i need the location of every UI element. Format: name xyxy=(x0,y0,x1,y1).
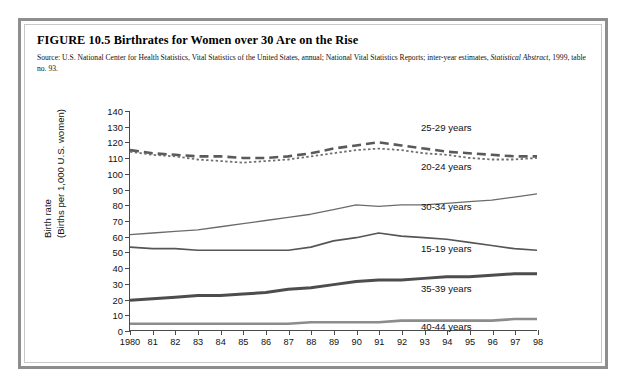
x-tick-label: 88 xyxy=(306,337,316,347)
x-tick-label: 91 xyxy=(374,337,384,347)
y-tick-label: 10 xyxy=(97,310,123,321)
y-axis-title-line1: Birth rate xyxy=(41,208,54,238)
y-tick-label: 80 xyxy=(97,200,123,211)
series-label: 30-34 years xyxy=(421,201,472,212)
y-tick-label: 110 xyxy=(97,153,123,164)
series-line xyxy=(130,319,537,324)
x-tick xyxy=(379,330,380,335)
x-tick xyxy=(243,330,244,335)
series-lines xyxy=(130,111,537,330)
figure-inner-border: FIGURE 10.5 Birthrates for Women over 30… xyxy=(24,24,602,363)
y-tick-label: 140 xyxy=(97,106,123,117)
x-tick xyxy=(515,330,516,335)
x-tick-label: 1980 xyxy=(120,337,140,347)
y-tick-label: 0 xyxy=(97,326,123,337)
x-tick-label: 89 xyxy=(329,337,339,347)
series-line xyxy=(130,142,537,158)
x-tick xyxy=(334,330,335,335)
x-tick xyxy=(538,330,539,335)
x-tick-label: 90 xyxy=(352,337,362,347)
y-tick-label: 120 xyxy=(97,137,123,148)
x-tick xyxy=(493,330,494,335)
plot-area: 0102030405060708090100110120130140 19808… xyxy=(129,111,537,331)
x-tick xyxy=(153,330,154,335)
y-axis-title: Birth rate (Births per 1,000 U.S. women) xyxy=(39,210,69,236)
x-tick xyxy=(221,330,222,335)
y-tick-label: 20 xyxy=(97,294,123,305)
series-line xyxy=(130,274,537,301)
x-tick xyxy=(130,330,131,335)
series-line xyxy=(130,233,537,250)
y-tick-label: 60 xyxy=(97,231,123,242)
y-tick-label: 30 xyxy=(97,278,123,289)
y-tick-label: 90 xyxy=(97,184,123,195)
x-tick-label: 93 xyxy=(420,337,430,347)
figure-frame: FIGURE 10.5 Birthrates for Women over 30… xyxy=(18,18,608,369)
x-tick-label: 94 xyxy=(442,337,452,347)
x-tick-label: 98 xyxy=(533,337,543,347)
figure-source-note: Source: U.S. National Center for Health … xyxy=(37,53,591,74)
source-text-italic: Statistical Abstract xyxy=(491,53,549,62)
source-text-part1: Source: U.S. National Center for Health … xyxy=(37,53,491,62)
x-tick xyxy=(311,330,312,335)
x-tick-label: 97 xyxy=(510,337,520,347)
y-axis-title-line2: (Births per 1,000 U.S. women) xyxy=(54,208,67,238)
series-label: 20-24 years xyxy=(421,161,472,172)
y-tick-label: 70 xyxy=(97,216,123,227)
series-label: 40-44 years xyxy=(421,321,472,332)
x-tick-label: 83 xyxy=(193,337,203,347)
x-tick-label: 81 xyxy=(148,337,158,347)
x-tick-label: 92 xyxy=(397,337,407,347)
figure-title: FIGURE 10.5 Birthrates for Women over 30… xyxy=(37,33,591,48)
series-label: 25-29 years xyxy=(421,122,472,133)
x-tick-label: 84 xyxy=(216,337,226,347)
x-tick-label: 85 xyxy=(238,337,248,347)
chart-area: Birth rate (Births per 1,000 U.S. women)… xyxy=(25,83,601,363)
x-tick xyxy=(198,330,199,335)
x-tick xyxy=(175,330,176,335)
x-tick xyxy=(402,330,403,335)
x-tick-label: 96 xyxy=(488,337,498,347)
series-label: 15-19 years xyxy=(421,243,472,254)
x-tick xyxy=(357,330,358,335)
y-tick-label: 40 xyxy=(97,263,123,274)
y-tick-label: 100 xyxy=(97,168,123,179)
x-tick xyxy=(266,330,267,335)
series-label: 35-39 years xyxy=(421,283,472,294)
figure-header: FIGURE 10.5 Birthrates for Women over 30… xyxy=(37,33,591,74)
y-tick-label: 130 xyxy=(97,121,123,132)
y-tick-label: 50 xyxy=(97,247,123,258)
x-tick-label: 86 xyxy=(261,337,271,347)
x-tick-label: 95 xyxy=(465,337,475,347)
series-line xyxy=(130,194,537,235)
x-tick-label: 87 xyxy=(284,337,294,347)
x-tick-label: 82 xyxy=(170,337,180,347)
x-tick xyxy=(289,330,290,335)
